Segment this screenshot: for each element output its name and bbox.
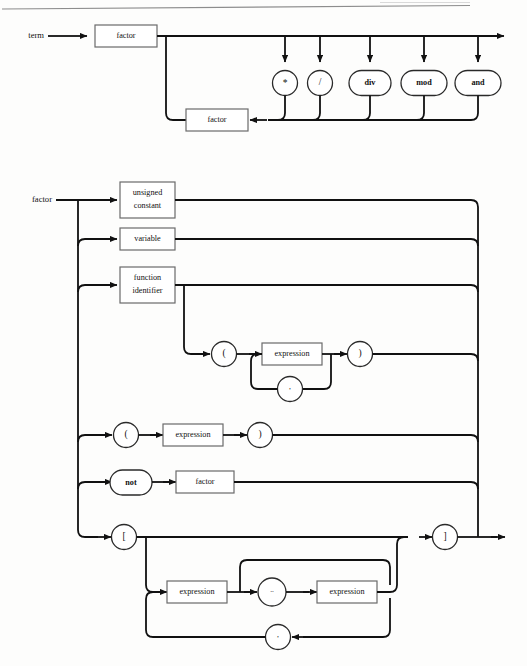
term-op-mod-out xyxy=(268,96,424,121)
not-keyword-label: not xyxy=(125,478,137,487)
function-args-rparen-label: ) xyxy=(358,348,361,359)
term-op-divide-label: / xyxy=(319,77,322,87)
factor-alt-parenthesized-expression: ( expression ) xyxy=(114,423,479,448)
term-op-multiply-label: * xyxy=(283,78,288,88)
function-identifier-line2: identifier xyxy=(132,286,162,295)
factor-entry-label: factor xyxy=(32,194,52,204)
function-args-entry-rail xyxy=(184,285,203,354)
term-op-divide-out xyxy=(268,96,320,121)
factor-alt-set-constructor: [ ] expression .. xyxy=(112,525,479,650)
set-elements-merge-to-rbracket xyxy=(377,537,408,592)
set-expression-high-label: expression xyxy=(329,587,364,596)
paren-out xyxy=(273,435,479,442)
set-comma-loop-right xyxy=(303,598,390,637)
paren-lparen-label: ( xyxy=(124,429,127,440)
term-op-multiply-out xyxy=(268,96,285,121)
term-op-mod-label: mod xyxy=(416,78,432,87)
page-header-rule xyxy=(2,3,470,10)
factor-alt-function-identifier: function identifier xyxy=(120,267,478,303)
function-args-expression-label: expression xyxy=(274,349,309,358)
set-range-dots-label: .. xyxy=(270,585,274,594)
factor-branch-stub-paren xyxy=(78,435,105,442)
unsigned-constant-out xyxy=(175,200,478,207)
set-comma-label: , xyxy=(277,630,279,639)
factor-alt-not-factor: not factor xyxy=(110,470,478,495)
set-rbracket-label: ] xyxy=(443,531,446,541)
factor-alt-variable: variable xyxy=(120,228,478,250)
function-identifier-out xyxy=(175,285,478,292)
term-factor-box-label: factor xyxy=(116,31,135,40)
unsigned-constant-line2: constant xyxy=(134,201,162,210)
term-operator-multiply: * xyxy=(268,36,298,120)
railroad-diagram-canvas: term factor factor * xyxy=(0,0,527,666)
syntax-diagram-page: term factor factor * xyxy=(0,0,527,666)
factor-branch-stub-variable xyxy=(78,239,110,246)
set-lbracket-label: [ xyxy=(122,531,125,541)
term-op-and-label: and xyxy=(471,78,485,87)
variable-box-label: variable xyxy=(134,234,161,243)
variable-out xyxy=(175,239,478,246)
function-identifier-line1: function xyxy=(134,273,161,282)
paren-rparen-label: ) xyxy=(258,429,261,440)
set-elements-entry-rail xyxy=(146,537,160,592)
factor-alt-function-arguments: ( expression ) , xyxy=(184,285,478,402)
diagram-factor: factor unsigned con xyxy=(32,182,505,650)
set-expression-low-label: expression xyxy=(179,587,214,596)
function-args-lparen-label: ( xyxy=(222,348,225,359)
factor-branch-stub-not xyxy=(78,482,105,489)
factor-left-spine xyxy=(78,200,98,537)
term-loop-left-rail xyxy=(166,36,186,120)
factor-branch-stub-funcid xyxy=(78,285,110,292)
diagram-term: term factor factor * xyxy=(28,25,504,131)
term-entry-label: term xyxy=(28,30,44,40)
term-op-and-out xyxy=(268,96,478,121)
function-args-comma-label: , xyxy=(289,382,291,391)
paren-expression-label: expression xyxy=(175,430,210,439)
term-loop-factor-box-label: factor xyxy=(207,115,226,124)
not-factor-out xyxy=(234,482,478,489)
function-args-out xyxy=(373,354,479,361)
term-op-div-label: div xyxy=(365,78,377,87)
unsigned-constant-line1: unsigned xyxy=(133,188,163,197)
factor-alt-unsigned-constant: unsigned constant xyxy=(120,182,478,218)
not-factor-box-label: factor xyxy=(195,477,214,486)
